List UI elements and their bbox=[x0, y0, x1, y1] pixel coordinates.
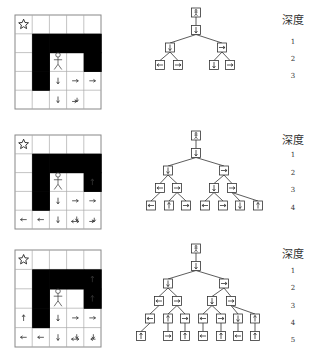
tree-edge bbox=[196, 35, 222, 44]
tree-edge bbox=[177, 306, 185, 315]
tree-edge bbox=[170, 52, 178, 61]
panel-depth-4: 深度 1 2 3 4 bbox=[0, 120, 314, 240]
tree-edge bbox=[214, 175, 224, 184]
tree-node bbox=[147, 201, 156, 210]
tree-edge bbox=[214, 193, 223, 202]
tree-node bbox=[164, 332, 173, 341]
tree-node bbox=[181, 332, 190, 341]
tree-edge bbox=[214, 52, 222, 61]
tree-node bbox=[251, 332, 260, 341]
tree-node bbox=[201, 201, 210, 210]
tree-node bbox=[199, 332, 208, 341]
tree-node bbox=[210, 184, 219, 193]
tree-edge bbox=[212, 306, 221, 315]
tree-edge bbox=[196, 271, 224, 280]
depth-header: 深度 bbox=[276, 245, 310, 261]
tree-edge bbox=[170, 35, 196, 44]
tree-edge bbox=[168, 288, 177, 297]
tree-node bbox=[156, 184, 165, 193]
depth-label: 4 bbox=[276, 319, 310, 327]
tree-edge bbox=[160, 52, 170, 61]
tree-node bbox=[164, 314, 173, 323]
tree-node bbox=[165, 201, 174, 210]
tree-node bbox=[146, 314, 155, 323]
tree-edge bbox=[224, 288, 231, 297]
tree-node bbox=[217, 332, 226, 341]
depth-label: 5 bbox=[276, 336, 310, 344]
tree-edge bbox=[150, 306, 159, 315]
depth-header: 深度 bbox=[276, 11, 310, 27]
tree-node bbox=[173, 297, 182, 306]
depth-label: 2 bbox=[276, 284, 310, 292]
panel-depth-5: 深度 1 2 3 4 5 bbox=[0, 240, 314, 360]
depth-label: 3 bbox=[276, 186, 310, 194]
tree-edge bbox=[160, 175, 168, 184]
tree-node bbox=[174, 61, 183, 70]
tree-node bbox=[192, 262, 201, 271]
depth-label: 1 bbox=[276, 267, 310, 275]
tree-node bbox=[254, 201, 263, 210]
tree-edge bbox=[169, 193, 177, 202]
tree-node bbox=[137, 332, 146, 341]
tree-edge bbox=[168, 306, 177, 315]
tree-node bbox=[182, 201, 191, 210]
search-tree bbox=[0, 0, 314, 120]
tree-node bbox=[192, 149, 201, 158]
tree-node bbox=[199, 314, 208, 323]
tree-edge bbox=[177, 193, 186, 202]
tree-node bbox=[251, 314, 260, 323]
tree-node bbox=[181, 314, 190, 323]
tree-node bbox=[219, 201, 228, 210]
tree-node bbox=[220, 279, 229, 288]
tree-node bbox=[218, 43, 227, 52]
tree-edge bbox=[205, 193, 214, 202]
tree-node bbox=[173, 184, 182, 193]
tree-edge bbox=[151, 193, 160, 202]
depth-label: 3 bbox=[276, 302, 310, 310]
tree-edge bbox=[168, 158, 196, 167]
tree-node bbox=[208, 297, 217, 306]
tree-node bbox=[166, 43, 175, 52]
tree-node bbox=[226, 61, 235, 70]
depth-label: 2 bbox=[276, 169, 310, 177]
tree-node bbox=[220, 166, 229, 175]
tree-edge bbox=[212, 288, 224, 297]
tree-node bbox=[234, 314, 243, 323]
tree-node bbox=[192, 131, 201, 140]
panel-depth-3: 深度 1 2 3 bbox=[0, 0, 314, 120]
tree-node bbox=[192, 26, 201, 35]
tree-edge bbox=[222, 52, 230, 61]
tree-node bbox=[234, 332, 243, 341]
tree-edge bbox=[168, 175, 177, 184]
tree-node bbox=[210, 61, 219, 70]
depth-label: 1 bbox=[276, 38, 310, 46]
tree-node bbox=[164, 166, 173, 175]
tree-node bbox=[164, 279, 173, 288]
tree-edge bbox=[196, 158, 224, 167]
tree-edge bbox=[203, 306, 212, 315]
tree-node bbox=[227, 297, 236, 306]
depth-header: 深度 bbox=[276, 131, 310, 147]
tree-edge bbox=[224, 175, 232, 184]
depth-label: 3 bbox=[276, 72, 310, 80]
tree-node bbox=[217, 314, 226, 323]
depth-label: 2 bbox=[276, 55, 310, 63]
tree-edge bbox=[141, 323, 150, 332]
search-tree bbox=[0, 240, 314, 360]
depth-label: 4 bbox=[276, 204, 310, 212]
tree-node bbox=[156, 61, 165, 70]
depth-label: 1 bbox=[276, 151, 310, 159]
tree-edge bbox=[159, 288, 168, 297]
tree-node bbox=[192, 244, 201, 253]
tree-edge bbox=[168, 271, 196, 280]
tree-node bbox=[228, 184, 237, 193]
tree-node bbox=[155, 297, 164, 306]
tree-node bbox=[192, 8, 201, 17]
search-tree bbox=[0, 120, 314, 240]
tree-node bbox=[236, 201, 245, 210]
